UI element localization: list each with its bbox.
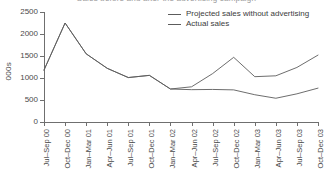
x-axis-tick-label: Apr–Jun 02 bbox=[191, 129, 199, 167]
chart-container: Sales before and after the advertising c… bbox=[0, 0, 333, 179]
chart-title-clipped: Sales before and after the advertising c… bbox=[0, 0, 333, 3]
x-axis-tick bbox=[86, 122, 87, 126]
x-axis-tick bbox=[128, 122, 129, 126]
legend-swatch-projected-icon bbox=[168, 14, 181, 15]
y-axis-tick-label: 1000 bbox=[20, 74, 38, 82]
x-axis-tick bbox=[170, 122, 171, 126]
y-axis-tick-label: 1500 bbox=[20, 52, 38, 60]
x-axis-tick bbox=[65, 122, 66, 126]
x-axis-tick-label: Jul–Sep 03 bbox=[296, 129, 304, 167]
x-axis-tick bbox=[255, 122, 256, 126]
x-axis-tick-label: Oct–Dec 01 bbox=[149, 129, 157, 169]
chart-legend: Projected sales without advertising Actu… bbox=[168, 9, 309, 29]
y-axis-tick-label: 2000 bbox=[20, 30, 38, 38]
legend-swatch-actual-icon bbox=[168, 24, 181, 25]
line-actual-sales bbox=[44, 23, 318, 98]
x-axis-tick-label: Jul–Sep 02 bbox=[212, 129, 220, 167]
y-axis-tick-label: 2500 bbox=[20, 8, 38, 16]
legend-item-projected: Projected sales without advertising bbox=[168, 9, 309, 19]
x-axis-tick bbox=[276, 122, 277, 126]
x-axis-tick-label: Apr–Jun 03 bbox=[275, 129, 283, 167]
x-axis-tick bbox=[44, 122, 45, 126]
legend-item-actual: Actual sales bbox=[168, 19, 309, 29]
x-axis-tick-label: Jul–Sep 01 bbox=[128, 129, 136, 167]
legend-label-projected: Projected sales without advertising bbox=[186, 10, 309, 18]
y-axis-tick-label: 0 bbox=[34, 118, 38, 126]
x-axis-tick bbox=[213, 122, 214, 126]
x-axis-tick bbox=[234, 122, 235, 126]
x-axis-tick-label: Jan–Mar 02 bbox=[170, 129, 178, 169]
x-axis-tick bbox=[107, 122, 108, 126]
x-axis-tick bbox=[192, 122, 193, 126]
x-axis-tick-label: Oct–Dec 03 bbox=[317, 129, 325, 169]
legend-label-actual: Actual sales bbox=[186, 20, 229, 28]
y-axis-title: 000s bbox=[4, 62, 13, 81]
x-axis-tick bbox=[297, 122, 298, 126]
x-axis-tick-label: Oct–Dec 02 bbox=[233, 129, 241, 169]
line-projected-sales bbox=[44, 23, 318, 89]
x-axis-tick-label: Oct–Dec 00 bbox=[64, 129, 72, 169]
x-axis-tick-label: Apr–Jun 01 bbox=[106, 129, 114, 167]
x-axis-tick-label: Jan–Mar 03 bbox=[254, 129, 262, 169]
x-axis-tick-label: Jul–Sep 00 bbox=[43, 129, 51, 167]
x-axis-tick bbox=[318, 122, 319, 126]
x-axis-tick-label: Jan–Mar 01 bbox=[85, 129, 93, 169]
x-axis-tick bbox=[149, 122, 150, 126]
y-axis-tick-label: 500 bbox=[25, 96, 38, 104]
